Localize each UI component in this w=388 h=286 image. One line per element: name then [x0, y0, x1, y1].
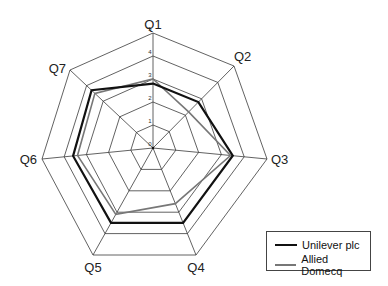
axis-label-q5: Q5 — [84, 260, 101, 275]
tick-label: 1 — [148, 118, 152, 124]
tick-label: 2 — [148, 95, 152, 101]
legend: Unilever plc Allied Domecq — [266, 231, 371, 271]
legend-label: Allied Domecq — [301, 253, 370, 277]
center-dot — [152, 147, 155, 150]
axis-labels: 012345Q1Q2Q3Q4Q5Q6Q7 — [20, 17, 289, 275]
axis-label-q6: Q6 — [20, 152, 37, 167]
legend-label: Unilever plc — [302, 239, 359, 251]
legend-swatch-allied-domecq — [275, 264, 296, 266]
axis-label-q2: Q2 — [234, 49, 251, 64]
axis-spoke — [93, 148, 153, 255]
axis-label-q3: Q3 — [271, 152, 288, 167]
legend-item-unilever: Unilever plc — [275, 239, 359, 251]
tick-label: 3 — [148, 72, 152, 78]
legend-item-allied-domecq: Allied Domecq — [275, 253, 370, 277]
axis-label-q4: Q4 — [187, 260, 204, 275]
tick-label: 4 — [148, 49, 152, 55]
axis-label-q1: Q1 — [144, 17, 161, 32]
axis-label-q7: Q7 — [49, 61, 66, 76]
legend-swatch-unilever — [275, 244, 297, 246]
axis-spoke — [42, 148, 153, 159]
